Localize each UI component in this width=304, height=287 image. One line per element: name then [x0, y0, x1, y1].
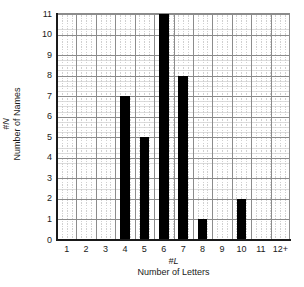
y-tick-label: 9 — [30, 51, 52, 60]
plot-top-border — [57, 13, 290, 14]
y-tick-label: 1 — [30, 215, 52, 224]
x-tick-label: 4 — [122, 245, 127, 254]
bar — [140, 137, 150, 240]
x-tick-label: 9 — [220, 245, 225, 254]
x-axis-title-text: Number of Letters — [57, 267, 290, 278]
y-axis-title-text: Number of Names — [12, 11, 23, 237]
x-tick-label: 2 — [84, 245, 89, 254]
y-tick-label: 5 — [30, 133, 52, 142]
y-tick-label: 10 — [30, 30, 52, 39]
y-tick-label: 8 — [30, 71, 52, 80]
y-tick-label: 7 — [30, 92, 52, 101]
x-axis-title-symbol: #L — [57, 256, 290, 267]
x-tick-label: 8 — [200, 245, 205, 254]
x-tick-label: 5 — [142, 245, 147, 254]
x-tick-label: 12+ — [273, 245, 288, 254]
y-tick-label: 4 — [30, 153, 52, 162]
y-axis-tick-labels: 01234567891011 — [30, 0, 52, 287]
y-tick-label: 2 — [30, 194, 52, 203]
x-tick-label: 6 — [161, 245, 166, 254]
major-gridlines — [57, 14, 290, 240]
x-tick-label: 1 — [64, 245, 69, 254]
y-axis-title-symbol: #N — [1, 11, 12, 237]
y-axis-line — [56, 13, 58, 241]
plot-area — [57, 14, 290, 240]
x-axis-title: #L Number of Letters — [57, 256, 290, 278]
y-tick-label: 0 — [30, 236, 52, 245]
x-tick-label: 3 — [103, 245, 108, 254]
y-tick-label: 6 — [30, 112, 52, 121]
x-tick-label: 10 — [236, 245, 246, 254]
plot-right-border — [289, 13, 290, 241]
x-tick-label: 11 — [256, 245, 265, 254]
bar — [178, 76, 188, 240]
x-tick-label: 7 — [181, 245, 186, 254]
y-tick-label: 11 — [30, 10, 52, 19]
x-axis-line — [56, 239, 291, 241]
bar — [237, 199, 247, 240]
y-axis-title: #N Number of Names — [1, 11, 23, 237]
histogram-chart: 01234567891011 123456789101112+ #L Numbe… — [0, 0, 304, 287]
bar — [198, 219, 208, 240]
bar — [159, 14, 169, 240]
y-tick-label: 3 — [30, 174, 52, 183]
bar — [120, 96, 130, 240]
